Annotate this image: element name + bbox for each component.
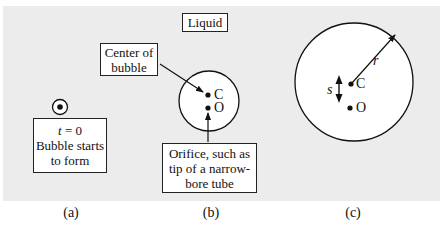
caption-a: (a) (63, 205, 79, 221)
center-of-line: Center of (105, 45, 154, 60)
orifice-point-dot (347, 105, 352, 110)
caption-b: (b) (203, 205, 219, 221)
orifice-line-1: Orifice, such as (169, 146, 250, 161)
bubble-medium (179, 71, 239, 131)
liquid-label-box: Liquid (182, 13, 228, 32)
bubble-starts-line: Bubble starts (36, 138, 104, 153)
separation-label: s (327, 83, 332, 97)
point-o-label-b: O (214, 101, 224, 115)
to-form-line: to form (51, 153, 90, 168)
radius-label: r (373, 54, 378, 68)
bubble-forming-icon (53, 100, 68, 115)
time-zero-label: t = 0 (58, 123, 82, 138)
bubble-line: bubble (111, 60, 146, 75)
liquid-label: Liquid (188, 15, 223, 30)
orifice-line-2: tip of a narrow- (169, 161, 250, 176)
center-of-bubble-label-box: Center of bubble (100, 43, 158, 76)
orifice-point-dot (205, 105, 210, 110)
orifice-label-box: Orifice, such as tip of a narrow- bore t… (162, 143, 257, 193)
point-o-label-c: O (356, 101, 366, 115)
bubble-large (295, 23, 413, 141)
bubble-starts-label-box: t = 0 Bubble starts to form (33, 118, 107, 173)
caption-c: (c) (345, 205, 361, 221)
point-c-label-c: C (356, 77, 365, 91)
orifice-line-3: bore tube (185, 176, 234, 191)
center-point-dot (205, 92, 210, 97)
